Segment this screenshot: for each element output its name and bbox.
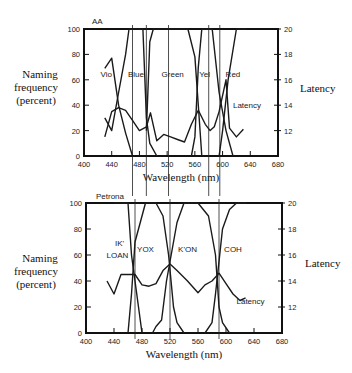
y-right-tick-label: 18 <box>288 225 296 234</box>
chart-aa: AA40044048052056060064068002040608010012… <box>14 17 336 196</box>
y-tick-label: 80 <box>74 225 82 234</box>
y-right-tick-label: 16 <box>288 251 296 260</box>
region-label: Yel <box>199 70 210 79</box>
y-right-tick-label: 12 <box>288 303 296 312</box>
x-axis-label: Wavelength (nm) <box>146 348 223 361</box>
y-right-tick-label: 14 <box>284 101 292 110</box>
y-right-tick-label: 12 <box>284 127 292 136</box>
y-tick-label: 60 <box>72 76 80 85</box>
plot-frame <box>86 203 282 333</box>
chart-petrona: Petrona400440480520560600640680020406080… <box>14 192 341 361</box>
region-label: K'ON <box>178 245 197 254</box>
y-axis-label: (percent) <box>16 278 56 291</box>
region-label: Blue <box>128 70 145 79</box>
figure: AA40044048052056060064068002040608010012… <box>0 0 352 373</box>
x-tick-label: 600 <box>220 337 233 346</box>
y-tick-label: 100 <box>67 25 80 34</box>
series-green <box>146 29 201 156</box>
x-tick-label: 400 <box>80 337 93 346</box>
series-yox <box>128 203 184 333</box>
y-tick-label: 60 <box>74 251 82 260</box>
x-tick-label: 560 <box>189 160 202 169</box>
series-ik-loan <box>114 203 142 333</box>
y-right-tick-label: 20 <box>284 25 292 34</box>
y-tick-label: 0 <box>78 329 82 338</box>
y-axis-label: Naming <box>22 68 58 80</box>
x-tick-label: 640 <box>248 337 261 346</box>
x-tick-label: 440 <box>105 160 118 169</box>
series-latency <box>107 264 246 300</box>
y-tick-label: 80 <box>72 50 80 59</box>
region-label: LOAN <box>107 251 129 260</box>
y-axis-label: frequency <box>14 81 58 93</box>
region-label: Green <box>162 70 184 79</box>
x-tick-label: 680 <box>272 160 285 169</box>
y-tick-label: 20 <box>74 303 82 312</box>
y-right-axis-label: Latency <box>300 82 336 94</box>
x-tick-label: 440 <box>108 337 121 346</box>
y-right-tick-label: 16 <box>284 76 292 85</box>
y-tick-label: 20 <box>72 127 80 136</box>
y-right-tick-label: 20 <box>288 199 296 208</box>
series-coh <box>205 203 247 333</box>
y-tick-label: 0 <box>76 152 80 161</box>
y-axis-label: (percent) <box>16 94 56 107</box>
region-label: Red <box>226 70 241 79</box>
y-axis-label: Naming <box>22 252 58 264</box>
region-label: Vio <box>100 70 112 79</box>
x-tick-label: 680 <box>276 337 289 346</box>
y-right-axis-label: Latency <box>305 257 341 269</box>
x-tick-label: 520 <box>161 160 174 169</box>
region-label: COH <box>224 245 242 254</box>
x-tick-label: 640 <box>244 160 257 169</box>
x-tick-label: 560 <box>192 337 205 346</box>
x-tick-label: 480 <box>133 160 146 169</box>
y-right-tick-label: 14 <box>288 277 296 286</box>
x-tick-label: 400 <box>78 160 91 169</box>
x-axis-label: Wavelength (nm) <box>143 171 220 184</box>
y-tick-label: 40 <box>74 277 82 286</box>
x-tick-label: 600 <box>216 160 229 169</box>
y-right-tick-label: 18 <box>284 50 292 59</box>
x-tick-label: 480 <box>136 337 149 346</box>
chart-title: Petrona <box>96 192 125 201</box>
region-label: IK' <box>115 239 125 248</box>
y-tick-label: 100 <box>69 199 82 208</box>
region-label: YOX <box>137 245 155 254</box>
y-tick-label: 40 <box>72 101 80 110</box>
plot-frame <box>84 29 278 156</box>
latency-label: Latency <box>237 297 265 306</box>
chart-title: AA <box>92 17 103 26</box>
y-axis-label: frequency <box>14 265 58 277</box>
latency-label: Latency <box>233 101 261 110</box>
